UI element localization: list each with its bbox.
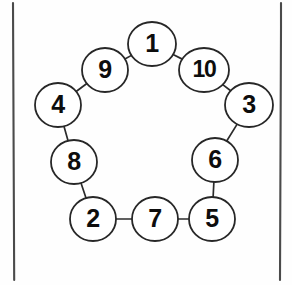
cycle-graph-diagram: 19104386275	[0, 0, 292, 285]
node-label-5: 5	[205, 204, 219, 232]
graph-node-9[interactable]: 9	[82, 48, 128, 92]
graph-node-2[interactable]: 2	[70, 197, 116, 241]
graph-node-10[interactable]: 10	[179, 48, 229, 92]
graph-edge-4-8	[64, 126, 68, 141]
node-label-10: 10	[193, 56, 216, 82]
graph-node-1[interactable]: 1	[128, 22, 176, 66]
graph-node-7[interactable]: 7	[132, 197, 178, 241]
frame-right-border	[280, 3, 281, 280]
graph-edge-3-10	[223, 85, 231, 91]
graph-edge-1-9	[125, 55, 132, 59]
graph-edge-8-2	[81, 183, 86, 198]
graph-edge-9-4	[76, 84, 87, 92]
node-label-1: 1	[145, 29, 159, 57]
graph-edge-6-3	[227, 124, 237, 141]
graph-edge-10-1	[173, 55, 182, 60]
graph-node-4[interactable]: 4	[35, 83, 81, 127]
frame-left-border	[13, 3, 14, 280]
node-label-7: 7	[148, 204, 161, 232]
node-label-6: 6	[208, 145, 221, 173]
figure-canvas: 19104386275	[0, 0, 292, 285]
graph-node-3[interactable]: 3	[225, 83, 273, 127]
graph-node-8[interactable]: 8	[51, 140, 97, 184]
node-label-3: 3	[242, 90, 255, 118]
node-label-4: 4	[51, 90, 65, 118]
node-label-8: 8	[67, 147, 81, 175]
graph-node-5[interactable]: 5	[189, 197, 235, 241]
graph-edge-5-6	[213, 182, 214, 197]
node-label-9: 9	[98, 55, 111, 83]
node-label-2: 2	[86, 204, 99, 232]
graph-node-6[interactable]: 6	[192, 138, 238, 182]
node-layer: 19104386275	[35, 22, 273, 241]
